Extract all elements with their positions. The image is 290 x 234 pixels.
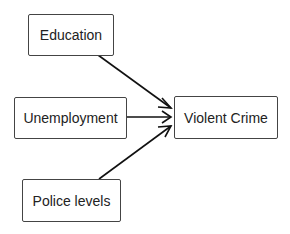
node-violent-crime: Violent Crime — [174, 96, 278, 139]
node-police-levels: Police levels — [22, 179, 121, 222]
node-label: Police levels — [33, 193, 111, 209]
node-education: Education — [28, 14, 114, 56]
node-unemployment: Unemployment — [14, 97, 127, 139]
node-label: Unemployment — [23, 110, 117, 126]
node-label: Violent Crime — [184, 110, 268, 126]
node-label: Education — [40, 27, 102, 43]
